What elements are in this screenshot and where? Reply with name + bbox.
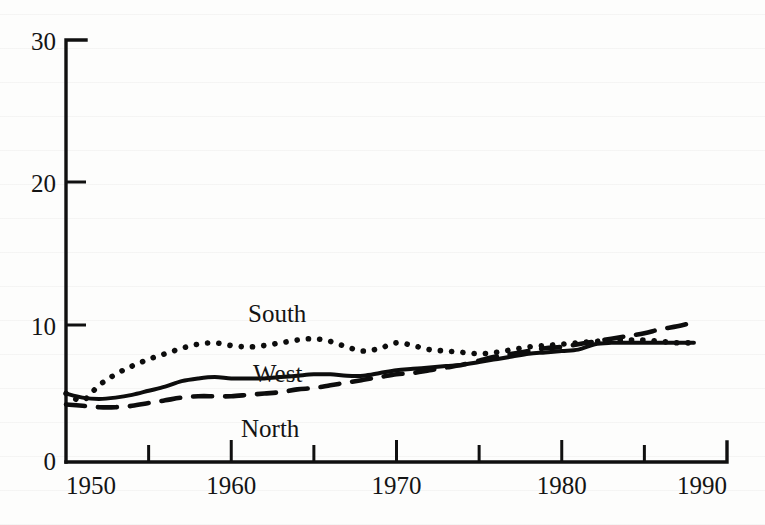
series-label-west: West	[253, 360, 302, 387]
y-tick-marks	[66, 182, 86, 325]
y-tick-label-20: 20	[31, 170, 56, 197]
y-tick-label-30: 30	[31, 28, 56, 55]
x-tick-label-1950: 1950	[66, 472, 116, 499]
figure-canvas: 30 20 10 0 19501960197019801990 South We…	[0, 0, 765, 525]
y-tick-labels: 30 20 10 0	[31, 28, 56, 475]
series-annotations: South West North	[241, 300, 307, 442]
x-tick-labels: 19501960197019801990	[66, 472, 727, 499]
x-tick-marks	[149, 440, 645, 462]
series-label-north: North	[241, 415, 300, 442]
series-line-west	[66, 343, 694, 399]
series-label-south: South	[248, 300, 307, 327]
x-tick-label-1960: 1960	[206, 472, 256, 499]
series-layer	[66, 322, 694, 407]
series-line-south	[66, 339, 694, 401]
y-tick-label-10: 10	[31, 313, 56, 340]
x-tick-label-1980: 1980	[537, 472, 587, 499]
x-tick-label-1990: 1990	[677, 472, 727, 499]
x-tick-label-1970: 1970	[372, 472, 422, 499]
line-chart: 30 20 10 0 19501960197019801990 South We…	[0, 0, 765, 525]
series-line-north	[66, 322, 694, 407]
y-tick-label-0: 0	[44, 448, 57, 475]
